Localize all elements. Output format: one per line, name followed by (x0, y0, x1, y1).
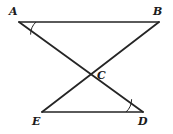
vertex-label-e: E (32, 116, 40, 127)
vertex-label-a: A (9, 6, 18, 17)
segment-ad (19, 22, 143, 112)
segment-eb (42, 22, 159, 112)
vertex-label-d: D (138, 116, 148, 127)
geometry-canvas (0, 0, 173, 134)
geometry-figure: A B C E D (0, 0, 173, 134)
vertex-label-b: B (153, 6, 162, 17)
vertex-label-c: C (97, 70, 106, 81)
